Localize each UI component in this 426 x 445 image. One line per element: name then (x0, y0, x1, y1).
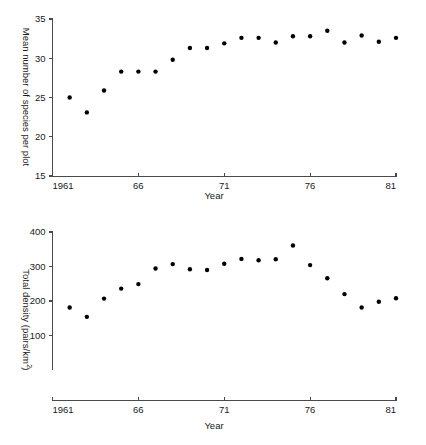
data-point (308, 34, 312, 38)
data-point (377, 40, 381, 44)
data-point (342, 292, 346, 296)
species-xlabel: Year (204, 190, 223, 201)
data-point (205, 268, 209, 272)
species-x-tick-group: 196166717681 (53, 173, 397, 191)
species-xtick-label: 76 (305, 180, 316, 191)
chart-panel-density: 100200300400 196166717681 Year Total den… (0, 215, 426, 445)
species-xtick-label: 66 (133, 180, 144, 191)
data-point (325, 29, 329, 33)
data-point (239, 36, 243, 40)
data-point (274, 257, 278, 261)
species-ytick-label: 30 (35, 53, 46, 64)
data-point (67, 305, 71, 309)
data-point (256, 36, 260, 40)
data-point (85, 110, 89, 114)
data-point (119, 69, 123, 73)
species-xtick-label: 1961 (53, 180, 74, 191)
species-ytick-label: 20 (35, 131, 46, 142)
data-point (102, 88, 106, 92)
data-point (308, 263, 312, 267)
density-ytick-label: 200 (30, 295, 46, 306)
density-ylabel: Total density (pairs/km2) (21, 269, 34, 370)
data-point (291, 34, 295, 38)
density-ylabel-suffix: ) (21, 368, 32, 371)
data-point (188, 46, 192, 50)
data-point (171, 262, 175, 266)
data-point (325, 276, 329, 280)
species-ylabel: Mean number of species per plot (21, 28, 32, 167)
density-y-tick-group: 100200300400 (30, 226, 53, 341)
species-chart-svg: 1520253035 196166717681 Year Mean number… (0, 0, 426, 208)
data-point (239, 257, 243, 261)
species-xtick-label: 71 (219, 180, 230, 191)
species-ytick-label: 25 (35, 92, 46, 103)
species-ytick-label: 35 (35, 13, 46, 24)
data-point (222, 262, 226, 266)
figure-container: 1520253035 196166717681 Year Mean number… (0, 0, 426, 445)
data-point (119, 286, 123, 290)
density-ytick-label: 300 (30, 261, 46, 272)
density-xtick-label: 66 (133, 404, 144, 415)
density-xtick-label: 1961 (53, 404, 74, 415)
data-point (359, 305, 363, 309)
density-ytick-label: 400 (30, 226, 46, 237)
density-data-points (67, 243, 398, 319)
data-point (291, 243, 295, 247)
density-xtick-label: 76 (305, 404, 316, 415)
data-point (85, 315, 89, 319)
density-xlabel: Year (204, 420, 223, 431)
data-point (394, 36, 398, 40)
chart-panel-species: 1520253035 196166717681 Year Mean number… (0, 0, 426, 208)
data-point (136, 69, 140, 73)
density-x-axis: 196166717681 (53, 397, 397, 415)
species-y-axis: 1520253035 (35, 13, 53, 181)
data-point (377, 299, 381, 303)
data-point (274, 40, 278, 44)
data-point (394, 296, 398, 300)
species-data-points (67, 29, 398, 115)
density-ytick-label: 100 (30, 330, 46, 341)
species-x-axis: 196166717681 (53, 173, 397, 191)
data-point (67, 95, 71, 99)
density-x-tick-group: 196166717681 (53, 397, 397, 415)
species-xtick-label: 81 (385, 180, 396, 191)
data-point (222, 41, 226, 45)
data-point (102, 296, 106, 300)
data-point (153, 266, 157, 270)
density-xtick-label: 81 (385, 404, 396, 415)
data-point (359, 33, 363, 37)
data-point (136, 282, 140, 286)
data-point (188, 267, 192, 271)
data-point (153, 69, 157, 73)
data-point (256, 258, 260, 262)
data-point (205, 46, 209, 50)
density-xtick-label: 71 (219, 404, 230, 415)
data-point (171, 58, 175, 62)
species-ytick-label: 15 (35, 170, 46, 181)
density-y-axis: 100200300400 (30, 226, 53, 370)
density-ylabel-prefix: Total density (pairs/km (21, 269, 32, 364)
density-chart-svg: 100200300400 196166717681 Year Total den… (0, 215, 426, 445)
data-point (342, 40, 346, 44)
species-y-tick-group: 1520253035 (35, 13, 53, 181)
